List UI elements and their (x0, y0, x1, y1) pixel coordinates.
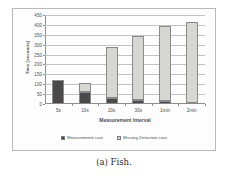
x-tick-label: 30s (132, 108, 144, 113)
y-tick-label: 350 (34, 32, 42, 37)
x-tick-label: 2min (186, 108, 198, 113)
legend-swatch-icon (61, 136, 65, 140)
figure-container: Time [seconds] 0501001502002503003504004… (0, 0, 228, 176)
figure-caption: (a) Fish. (0, 157, 228, 167)
x-axis-title: Measurement Interval (45, 117, 205, 123)
bar-group[interactable]: 5s (52, 80, 64, 104)
x-tick-label: 1min (159, 108, 171, 113)
x-tick-mark (178, 104, 179, 106)
y-tick-label: 250 (34, 52, 42, 57)
bar-group[interactable]: 10s (79, 83, 91, 104)
bar-group[interactable]: 20s (106, 47, 118, 104)
y-tick-label: 450 (34, 13, 42, 18)
bar-segment[interactable] (106, 98, 118, 104)
x-tick-label: 10s (79, 108, 91, 113)
legend-item[interactable]: Measurement cost (61, 135, 103, 140)
x-tick-mark (98, 104, 99, 106)
y-tick-label: 0 (39, 102, 42, 107)
bar-segment[interactable] (186, 22, 198, 103)
bar-group[interactable]: 30s (132, 36, 144, 104)
bar-series-container: 5s10s20s30s1min2min (45, 15, 205, 104)
bar-group[interactable]: 1min (159, 26, 171, 104)
legend-label: Missing Detection cost (123, 135, 167, 140)
y-tick-label: 50 (37, 92, 42, 97)
legend-label: Measurement cost (67, 135, 103, 140)
y-tick-label: 300 (34, 42, 42, 47)
legend-swatch-icon (117, 136, 121, 140)
legend-item[interactable]: Missing Detection cost (117, 135, 167, 140)
bar-group[interactable]: 2min (186, 22, 198, 104)
x-tick-label: 5s (52, 108, 64, 113)
chart-legend: Measurement costMissing Detection cost (13, 135, 215, 140)
x-tick-mark (125, 104, 126, 106)
chart-inner: Time [seconds] 0501001502002503003504004… (13, 9, 215, 150)
y-tick-label: 200 (34, 62, 42, 67)
bar-segment[interactable] (159, 26, 171, 101)
y-tick-label: 100 (34, 82, 42, 87)
plot-area: 050100150200250300350400450 5s10s20s30s1… (45, 15, 205, 104)
y-tick-label: 400 (34, 22, 42, 27)
x-tick-mark (72, 104, 73, 106)
chart-frame: Time [seconds] 0501001502002503003504004… (12, 8, 216, 151)
y-tick-mark (43, 104, 45, 105)
y-axis-title: Time [seconds] (25, 23, 30, 93)
bar-segment[interactable] (159, 101, 171, 104)
bar-segment[interactable] (79, 83, 91, 92)
y-tick-label: 150 (34, 72, 42, 77)
x-tick-label: 20s (106, 108, 118, 113)
bar-segment[interactable] (132, 100, 144, 104)
bar-segment[interactable] (106, 47, 118, 98)
bar-segment[interactable] (52, 80, 64, 104)
bar-segment[interactable] (132, 36, 144, 100)
x-tick-mark (205, 104, 206, 106)
bar-segment[interactable] (79, 92, 91, 104)
x-tick-mark (152, 104, 153, 106)
